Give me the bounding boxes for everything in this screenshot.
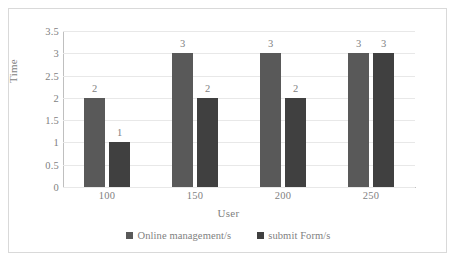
x-axis-tick-label: 250 (341, 190, 401, 201)
bar (172, 53, 193, 187)
bar-value-label: 3 (256, 38, 286, 49)
bar-value-label: 3 (168, 38, 198, 49)
legend-item[interactable]: Online management/s (126, 230, 231, 241)
legend-label: submit Form/s (268, 230, 330, 241)
x-axis-tick-label: 100 (77, 190, 137, 201)
bar (348, 53, 369, 187)
bar-value-label: 1 (105, 127, 135, 138)
y-axis-tick-labels: 00.511.522.533.5 (13, 31, 59, 188)
bar-value-label: 2 (80, 83, 110, 94)
gridline (63, 187, 415, 188)
y-axis-tick-label: 0.5 (17, 159, 59, 170)
plot-area: 21323233 (63, 31, 415, 187)
bar (197, 98, 218, 187)
legend-label: Online management/s (137, 230, 231, 241)
y-axis-tick-label: 3.5 (17, 26, 59, 37)
bar (373, 53, 394, 187)
chart-frame: Time 00.511.522.533.5 21323233 100150200… (8, 8, 447, 253)
x-axis-tick-label: 150 (165, 190, 225, 201)
bar-value-label: 2 (193, 83, 223, 94)
legend-swatch-icon (126, 232, 133, 239)
y-axis-tick-label: 2.5 (17, 70, 59, 81)
bar (84, 98, 105, 187)
y-axis-tick-label: 0 (17, 182, 59, 193)
x-axis-tick-labels: 100150200250 (63, 190, 416, 208)
bar (109, 142, 130, 187)
y-axis-tick-label: 2 (17, 92, 59, 103)
bar (260, 53, 281, 187)
y-axis-tick-label: 1 (17, 137, 59, 148)
bar-value-label: 3 (369, 38, 399, 49)
x-axis-title: User (9, 207, 448, 219)
gridline (63, 31, 415, 32)
x-axis-tick-label: 200 (253, 190, 313, 201)
y-axis-tick-label: 1.5 (17, 115, 59, 126)
chart-legend: Online management/ssubmit Form/s (9, 230, 448, 241)
bar-value-label: 2 (281, 83, 311, 94)
legend-item[interactable]: submit Form/s (257, 230, 330, 241)
bar (285, 98, 306, 187)
y-axis-tick-label: 3 (17, 48, 59, 59)
legend-swatch-icon (257, 232, 264, 239)
